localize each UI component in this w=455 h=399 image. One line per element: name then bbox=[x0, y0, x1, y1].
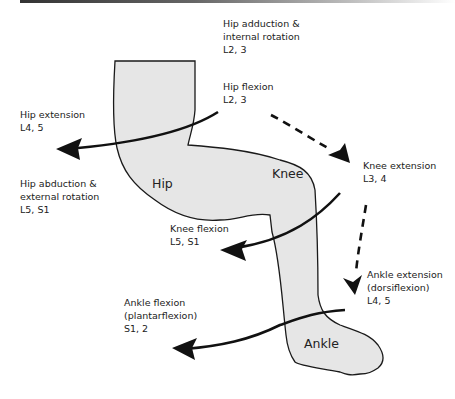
label-hip-adduction: Hip adduction & internal rotation L2, 3 bbox=[223, 17, 300, 56]
ankle-dashed-arrowhead-icon bbox=[343, 275, 362, 295]
label-hip-flexion-line1: Hip flexion bbox=[223, 80, 274, 93]
hip-arrowhead-icon bbox=[56, 138, 82, 160]
label-hip-extension-line2: L4, 5 bbox=[20, 121, 85, 134]
knee-dashed-arrowhead-icon bbox=[328, 143, 350, 163]
label-hip-adduction-line2: internal rotation bbox=[223, 30, 300, 43]
label-knee-extension: Knee extension L3, 4 bbox=[363, 159, 436, 185]
hip-to-knee-dashed-arrow bbox=[271, 115, 328, 148]
label-hip-abduction-line2: external rotation bbox=[20, 190, 99, 203]
label-ankle-flexion: Ankle flexion (plantarflexion) S1, 2 bbox=[124, 296, 197, 335]
label-ankle-extension-line3: L4, 5 bbox=[367, 294, 443, 307]
label-ankle-flexion-line1: Ankle flexion bbox=[124, 296, 197, 309]
label-knee-flexion-line2: L5, S1 bbox=[170, 235, 229, 248]
region-label-knee: Knee bbox=[272, 166, 304, 181]
label-hip-abduction-line3: L5, S1 bbox=[20, 203, 99, 216]
knee-to-ankle-dashed-arrow bbox=[356, 205, 366, 272]
label-ankle-extension-line2: (dorsiflexion) bbox=[367, 281, 443, 294]
label-hip-extension-line1: Hip extension bbox=[20, 108, 85, 121]
region-label-hip: Hip bbox=[152, 176, 173, 191]
label-hip-adduction-line1: Hip adduction & bbox=[223, 17, 300, 30]
label-knee-flexion: Knee flexion L5, S1 bbox=[170, 222, 229, 248]
region-label-ankle: Ankle bbox=[304, 336, 339, 351]
label-hip-flexion-line2: L2, 3 bbox=[223, 93, 274, 106]
label-hip-extension: Hip extension L4, 5 bbox=[20, 108, 85, 134]
label-hip-abduction-line1: Hip abduction & bbox=[20, 177, 99, 190]
label-ankle-extension: Ankle extension (dorsiflexion) L4, 5 bbox=[367, 268, 443, 307]
label-ankle-extension-line1: Ankle extension bbox=[367, 268, 443, 281]
label-ankle-flexion-line2: (plantarflexion) bbox=[124, 309, 197, 322]
label-ankle-flexion-line3: S1, 2 bbox=[124, 322, 197, 335]
label-hip-adduction-line3: L2, 3 bbox=[223, 43, 300, 56]
label-hip-flexion: Hip flexion L2, 3 bbox=[223, 80, 274, 106]
label-knee-flexion-line1: Knee flexion bbox=[170, 222, 229, 235]
label-knee-extension-line2: L3, 4 bbox=[363, 172, 436, 185]
label-knee-extension-line1: Knee extension bbox=[363, 159, 436, 172]
label-hip-abduction: Hip abduction & external rotation L5, S1 bbox=[20, 177, 99, 216]
